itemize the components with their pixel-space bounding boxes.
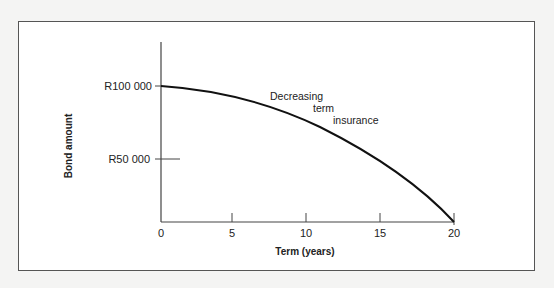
x-tick-label-10: 10 xyxy=(300,227,312,239)
y-axis-title: Bond amount xyxy=(63,113,74,178)
x-tick-label-0: 0 xyxy=(158,227,164,239)
y-tick-label-100k: R100 000 xyxy=(104,80,152,92)
decreasing-term-curve xyxy=(161,86,454,222)
y-tick-label-50k: R50 000 xyxy=(108,153,150,165)
chart: R100 000 R50 000 0 5 10 15 20 Term (year… xyxy=(0,0,554,288)
x-tick-label-5: 5 xyxy=(229,227,235,239)
annotation-decreasing: Decreasing xyxy=(270,90,323,102)
x-tick-label-15: 15 xyxy=(374,227,386,239)
annotation-term: term xyxy=(313,102,334,114)
annotation-insurance: insurance xyxy=(333,114,379,126)
x-axis-title: Term (years) xyxy=(275,246,334,257)
x-tick-label-20: 20 xyxy=(448,227,460,239)
